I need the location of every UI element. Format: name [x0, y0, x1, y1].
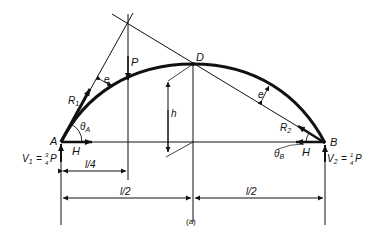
label-h-left: H — [72, 145, 80, 157]
angle-theta-b-arc — [306, 133, 309, 142]
svg-text:P: P — [355, 153, 362, 164]
thrust-line-right — [112, 14, 325, 143]
label-v2: V2 = 1 4 P — [327, 152, 362, 166]
label-theta-a: θA — [80, 121, 90, 133]
label-d: D — [196, 51, 204, 63]
label-half-span-left: l/2 — [120, 186, 131, 197]
figure-caption: (a) — [186, 217, 196, 226]
label-b: B — [330, 136, 337, 148]
svg-text:1: 1 — [350, 152, 353, 158]
label-p: P — [131, 56, 139, 68]
svg-text:V1: V1 — [22, 153, 33, 165]
label-a: A — [49, 135, 57, 147]
rise-h-ref-bottom — [166, 142, 193, 157]
svg-text:P: P — [50, 153, 57, 164]
three-hinged-arch-diagram: D A B P R1 R2 H H θA θB e e h V1 = 3 4 P… — [0, 0, 381, 238]
label-h-right: H — [302, 146, 310, 158]
label-r2: R2 — [280, 122, 291, 134]
label-e-right: e — [258, 89, 264, 100]
label-theta-b: θB — [274, 148, 284, 160]
label-h-rise: h — [171, 108, 177, 119]
label-quarter-span: l/4 — [85, 159, 96, 170]
reaction-r1-arrow — [61, 89, 90, 142]
label-e-left: e — [104, 74, 110, 85]
svg-text:3: 3 — [45, 152, 49, 158]
label-r1: R1 — [68, 95, 79, 107]
svg-text:=: = — [341, 153, 347, 164]
label-v1: V1 = 3 4 P — [22, 152, 57, 166]
svg-text:4: 4 — [350, 160, 354, 166]
label-half-span-right: l/2 — [246, 186, 257, 197]
svg-text:V2: V2 — [327, 153, 338, 165]
angle-theta-b-leader — [278, 144, 304, 149]
svg-text:=: = — [36, 153, 42, 164]
svg-text:4: 4 — [45, 160, 49, 166]
